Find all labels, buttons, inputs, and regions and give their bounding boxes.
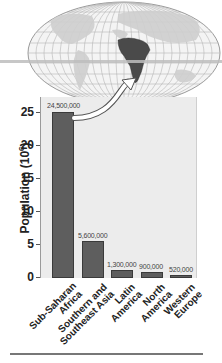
bar-north-america [141,272,163,278]
bar-southern-southeast-asia [82,241,104,278]
y-tick-0: 0 [0,270,40,284]
value-label-latin-america: 1,300,000 [107,261,136,268]
y-tick-25: 25 [0,105,40,119]
y-axis-label: Population (106) [17,123,33,253]
world-map [0,0,222,110]
value-label-sub-saharan-africa: 24,500,000 [47,102,80,109]
bar-sub-saharan-africa [52,112,74,278]
value-label-north-america: 900,000 [139,263,163,270]
value-label-southern-southeast-asia: 5,600,000 [78,232,107,239]
bar-western-europe [170,275,192,278]
y-axis-line [40,97,41,278]
horizontal-divider [0,60,222,63]
value-label-western-europe: 520,000 [169,266,193,273]
bottom-rule [10,353,203,355]
bar-latin-america [111,270,133,278]
